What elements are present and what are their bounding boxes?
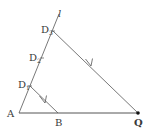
construction-figure: l D3 D2 D1 A B Q — [0, 0, 149, 136]
diagram-canvas: l D3 D2 D1 A B Q — [0, 0, 149, 136]
label-l: l — [58, 8, 61, 19]
segment-D1B — [30, 86, 58, 113]
label-B: B — [55, 117, 62, 128]
point-Q-dot — [136, 111, 140, 115]
label-D1: D1 — [18, 79, 30, 91]
label-D3: D3 — [41, 24, 53, 36]
label-A: A — [6, 108, 15, 119]
parallel-arrow-D3Q-icon — [86, 59, 93, 67]
label-Q: Q — [134, 117, 143, 128]
segment-D3Q — [53, 31, 138, 113]
label-D2: D2 — [29, 52, 41, 64]
